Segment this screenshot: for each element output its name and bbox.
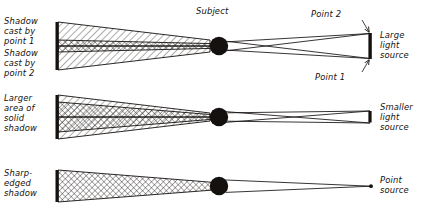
light-rays — [213, 34, 371, 59]
label-point-1: Point 1 — [315, 72, 345, 82]
svg-text:edged: edged — [4, 178, 32, 188]
row-point-source: Sharp- edged shadow Point source — [4, 168, 409, 202]
umbra-region-3 — [58, 170, 211, 202]
screen-edge-bar-2 — [56, 95, 59, 139]
label-point-source: Point source — [380, 175, 409, 195]
light-rays-2 — [213, 111, 371, 124]
label-point-2: Point 2 — [311, 9, 341, 19]
svg-text:Shadow: Shadow — [4, 48, 38, 58]
screen-edge-bar — [56, 22, 59, 70]
screen-edge-bar-3 — [56, 170, 59, 202]
svg-text:light: light — [380, 40, 400, 50]
large-light-source-bar — [368, 33, 371, 59]
subject-ball-3 — [210, 177, 228, 195]
svg-text:point 1: point 1 — [3, 36, 34, 46]
svg-text:Sharp-: Sharp- — [4, 168, 32, 178]
svg-text:point 2: point 2 — [3, 68, 34, 78]
row-large-source: Shadow cast by point 1 Shadow cast by po… — [3, 6, 409, 82]
label-subject: Subject — [196, 6, 229, 16]
diagram-canvas: Shadow cast by point 1 Shadow cast by po… — [0, 0, 428, 219]
svg-text:area of: area of — [4, 103, 36, 113]
svg-text:shadow: shadow — [4, 123, 37, 133]
svg-text:Point: Point — [380, 175, 402, 185]
svg-text:solid: solid — [4, 113, 25, 123]
svg-text:shadow: shadow — [4, 188, 37, 198]
svg-text:cast by: cast by — [4, 26, 36, 36]
svg-text:cast by: cast by — [4, 58, 36, 68]
svg-text:Large: Large — [380, 30, 404, 40]
shadow-diagram-figure: Shadow cast by point 1 Shadow cast by po… — [0, 0, 428, 219]
row-smaller-source: Larger area of solid shadow Smaller ligh… — [4, 93, 413, 139]
label-shadow-cast-by-point-1: Shadow cast by point 1 — [3, 16, 38, 46]
svg-text:Smaller: Smaller — [380, 102, 413, 112]
point-light-source-dot — [369, 184, 373, 188]
svg-text:source: source — [380, 185, 409, 195]
label-smaller-light-source: Smaller light source — [380, 102, 413, 132]
light-rays-3 — [226, 180, 371, 192]
label-sharp-edged-shadow: Sharp- edged shadow — [4, 168, 37, 198]
svg-text:source: source — [380, 50, 409, 60]
svg-text:light: light — [380, 112, 400, 122]
label-large-light-source: Large light source — [380, 30, 409, 60]
smaller-light-source-bar — [368, 111, 371, 123]
label-larger-area-of-solid-shadow: Larger area of solid shadow — [4, 93, 37, 133]
point-leaders — [362, 20, 369, 72]
svg-text:Shadow: Shadow — [4, 16, 38, 26]
svg-text:Larger: Larger — [4, 93, 32, 103]
svg-text:source: source — [380, 122, 409, 132]
label-shadow-cast-by-point-2: Shadow cast by point 2 — [3, 48, 38, 78]
